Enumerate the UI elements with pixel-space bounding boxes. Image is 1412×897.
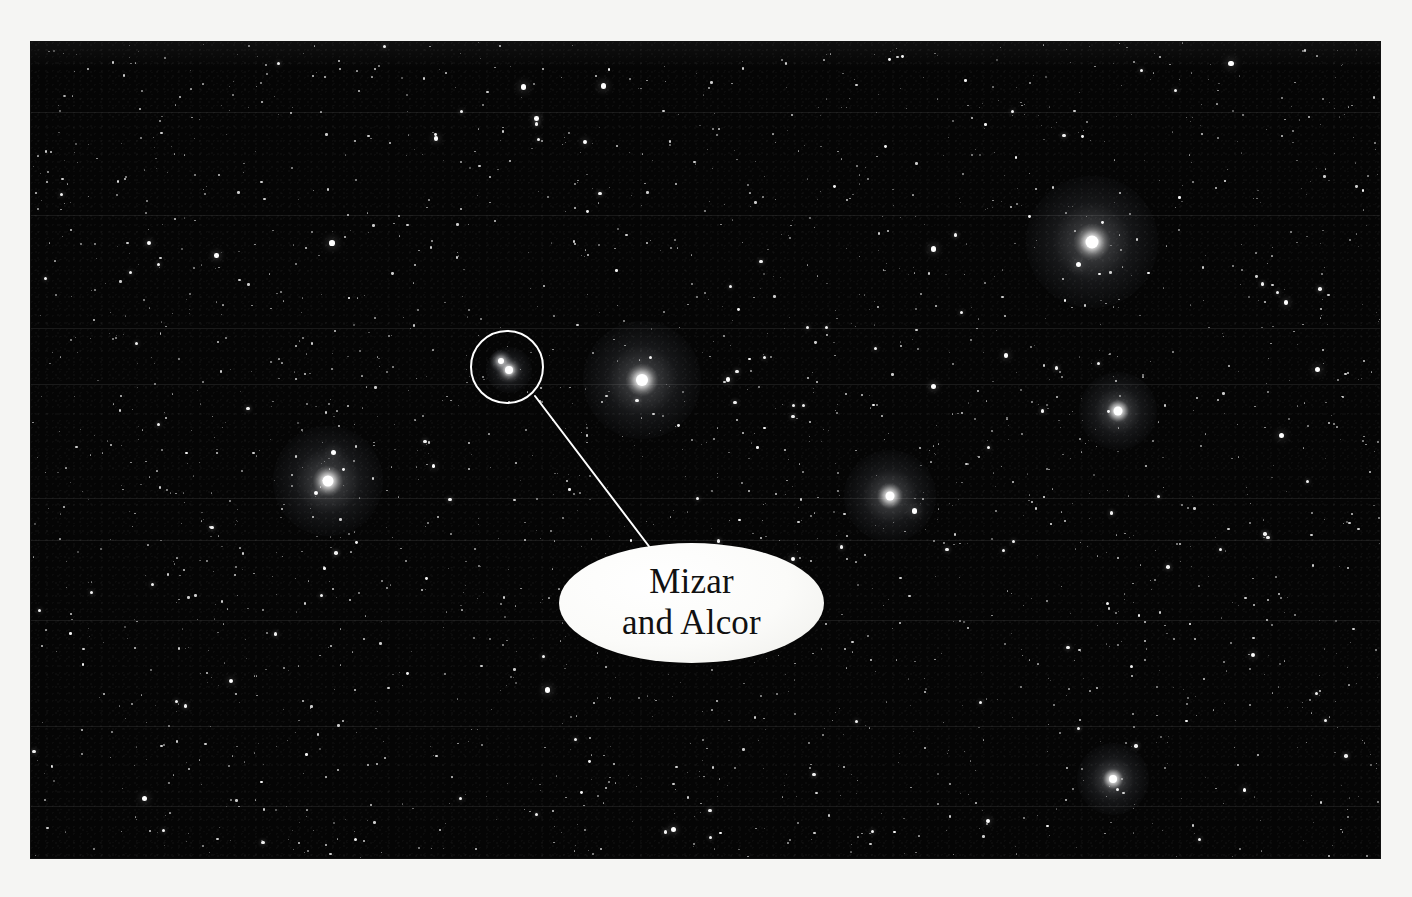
mizar-and-alcor-label: Mizar and Alcor [559,543,824,663]
page-root: Mizar and Alcor [0,0,1412,897]
mizar-and-alcor-label-text: Mizar and Alcor [622,562,761,643]
callout-leader-line [0,0,1412,897]
annotation-overlay: Mizar and Alcor [0,0,1412,897]
mizar-alcor-callout-circle [470,330,544,404]
